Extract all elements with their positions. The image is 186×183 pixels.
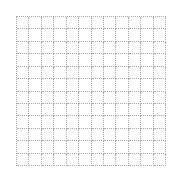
- grid-cell: [104, 92, 116, 104]
- grid-cell: [141, 29, 153, 41]
- grid-cell: [29, 67, 41, 79]
- grid-cell: [42, 67, 54, 79]
- grid-cell: [79, 116, 91, 128]
- grid-cell: [141, 79, 153, 91]
- grid-cell: [79, 17, 91, 29]
- grid-cell: [54, 154, 66, 166]
- grid-cell: [29, 92, 41, 104]
- grid-cell: [17, 67, 29, 79]
- grid-cell: [67, 79, 79, 91]
- grid-cell: [79, 29, 91, 41]
- grid-cell: [17, 42, 29, 54]
- grid-cell: [104, 67, 116, 79]
- grid-cell: [116, 67, 128, 79]
- grid-cell: [42, 42, 54, 54]
- grid-cell: [104, 129, 116, 141]
- grid-cell: [92, 67, 104, 79]
- grid-cell: [67, 116, 79, 128]
- grid-cell: [141, 116, 153, 128]
- grid-cell: [79, 141, 91, 153]
- grid-cell: [104, 54, 116, 66]
- grid-cell: [104, 42, 116, 54]
- grid-cell: [129, 116, 141, 128]
- grid-cell: [54, 92, 66, 104]
- grid-cell: [141, 42, 153, 54]
- grid-cell: [42, 129, 54, 141]
- grid-cell: [141, 104, 153, 116]
- grid-cell: [141, 54, 153, 66]
- grid-cell: [154, 79, 166, 91]
- grid-cell: [17, 154, 29, 166]
- grid-cell: [79, 154, 91, 166]
- grid-cell: [141, 67, 153, 79]
- grid-cell: [29, 154, 41, 166]
- grid-cell: [92, 141, 104, 153]
- grid-cell: [29, 141, 41, 153]
- grid-cell: [67, 141, 79, 153]
- grid-cell: [54, 141, 66, 153]
- grid-cell: [154, 129, 166, 141]
- grid-cell: [92, 104, 104, 116]
- grid-cell: [129, 104, 141, 116]
- grid-cell: [54, 42, 66, 54]
- grid-cell: [79, 67, 91, 79]
- grid-cell: [67, 42, 79, 54]
- grid-cell: [92, 42, 104, 54]
- grid-cell: [104, 116, 116, 128]
- grid-cell: [129, 92, 141, 104]
- grid-cell: [129, 141, 141, 153]
- grid-cell: [129, 67, 141, 79]
- grid-cell: [116, 141, 128, 153]
- grid-cell: [104, 17, 116, 29]
- grid-cell: [42, 54, 54, 66]
- grid-cell: [29, 42, 41, 54]
- grid-cell: [29, 29, 41, 41]
- grid-cell: [154, 42, 166, 54]
- grid-cell: [104, 141, 116, 153]
- grid-cell: [104, 154, 116, 166]
- grid-cell: [154, 116, 166, 128]
- canvas: [0, 0, 186, 183]
- grid-cell: [17, 29, 29, 41]
- grid-cell: [116, 92, 128, 104]
- grid-cell: [116, 129, 128, 141]
- grid-cell: [29, 54, 41, 66]
- grid-cell: [17, 54, 29, 66]
- grid-cell: [54, 67, 66, 79]
- grid-cell: [42, 104, 54, 116]
- grid-cell: [129, 79, 141, 91]
- grid-cell: [154, 17, 166, 29]
- grid-cell: [154, 92, 166, 104]
- grid-cell: [116, 104, 128, 116]
- grid-cell: [141, 141, 153, 153]
- grid-cell: [79, 54, 91, 66]
- grid-cell: [54, 29, 66, 41]
- grid-cell: [116, 17, 128, 29]
- grid-cell: [42, 79, 54, 91]
- grid-cell: [154, 67, 166, 79]
- grid-cell: [116, 116, 128, 128]
- grid-cell: [92, 116, 104, 128]
- grid-cell: [42, 141, 54, 153]
- grid-cell: [29, 104, 41, 116]
- grid-cell: [129, 129, 141, 141]
- grid-cell: [116, 154, 128, 166]
- grid-cell: [67, 104, 79, 116]
- grid-cell: [104, 79, 116, 91]
- grid-cell: [54, 129, 66, 141]
- grid-cell: [154, 54, 166, 66]
- grid-cell: [116, 54, 128, 66]
- grid-cell: [67, 154, 79, 166]
- grid-cell: [154, 154, 166, 166]
- grid-cell: [29, 79, 41, 91]
- grid-cell: [17, 141, 29, 153]
- grid-cell: [129, 54, 141, 66]
- grid-cell: [29, 17, 41, 29]
- grid-cell: [54, 54, 66, 66]
- grid-cell: [104, 104, 116, 116]
- grid-cell: [17, 79, 29, 91]
- grid-cell: [54, 79, 66, 91]
- grid-cell: [129, 17, 141, 29]
- grid-cell: [67, 129, 79, 141]
- grid-cell: [67, 92, 79, 104]
